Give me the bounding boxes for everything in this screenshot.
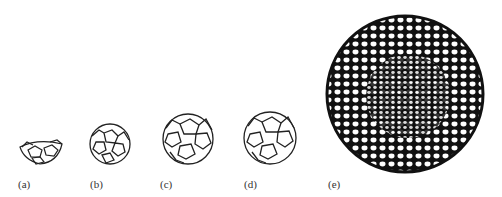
panel-a-label: (a) [18,178,30,190]
fullerene-figure [0,0,502,197]
panel-c-label: (c) [160,178,172,190]
panel-c-cage [163,114,213,164]
panel-b-cage [90,124,130,164]
panel-e-label: (e) [328,178,340,190]
panel-b-label: (b) [90,178,103,190]
panel-d-label: (d) [244,178,257,190]
panel-d-cage [244,112,296,164]
panel-e-cage [327,16,483,172]
panel-a-cage [20,140,62,164]
